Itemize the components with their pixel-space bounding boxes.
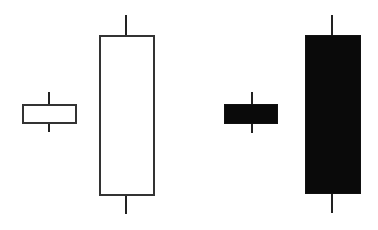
candle-body bbox=[305, 35, 361, 194]
candle-body bbox=[22, 104, 77, 124]
candle-body bbox=[224, 104, 278, 124]
candle-body bbox=[99, 35, 155, 196]
candlestick-diagram bbox=[0, 0, 378, 230]
